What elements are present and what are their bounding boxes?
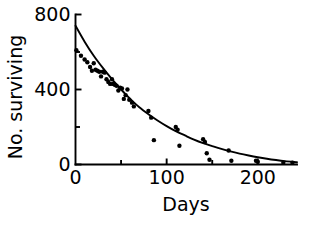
data-point	[281, 160, 285, 164]
data-point	[256, 159, 260, 163]
data-point	[149, 115, 153, 119]
data-point	[207, 158, 211, 162]
data-point	[120, 86, 124, 90]
x-axis-tick-labels: 0100200	[69, 166, 275, 188]
figure-container: 0400800 0100200 Days No. surviving	[0, 0, 309, 225]
x-tick-label-0: 0	[69, 166, 81, 188]
data-point	[229, 159, 233, 163]
data-point	[203, 140, 207, 144]
y-tick-label-400: 400	[34, 78, 70, 100]
data-point	[110, 77, 114, 81]
x-tick-label-200: 200	[240, 166, 276, 188]
data-point	[85, 60, 89, 64]
data-point	[175, 128, 179, 132]
scatter-data-points	[74, 48, 294, 165]
y-tick-label-800: 800	[34, 3, 70, 25]
data-point	[132, 104, 136, 108]
data-point	[146, 109, 150, 113]
x-tick-label-100: 100	[149, 166, 185, 188]
data-point	[125, 87, 129, 91]
data-point	[88, 65, 92, 69]
data-point	[122, 97, 126, 101]
data-point	[205, 151, 209, 155]
y-axis-title: No. surviving	[4, 35, 26, 159]
data-point	[79, 54, 83, 58]
y-axis-tick-labels: 0400800	[34, 3, 70, 175]
data-point	[123, 93, 127, 97]
data-point	[92, 61, 96, 65]
data-point	[177, 144, 181, 148]
data-point	[130, 100, 134, 104]
data-point	[99, 74, 103, 78]
data-point	[290, 160, 294, 164]
data-point	[102, 70, 106, 74]
data-point	[226, 148, 230, 152]
fitted-decay-curve	[76, 26, 298, 163]
data-point	[152, 138, 156, 142]
x-axis-title: Days	[162, 193, 209, 215]
survival-decay-chart: 0400800 0100200 Days No. surviving	[0, 0, 309, 225]
data-point	[74, 48, 78, 52]
